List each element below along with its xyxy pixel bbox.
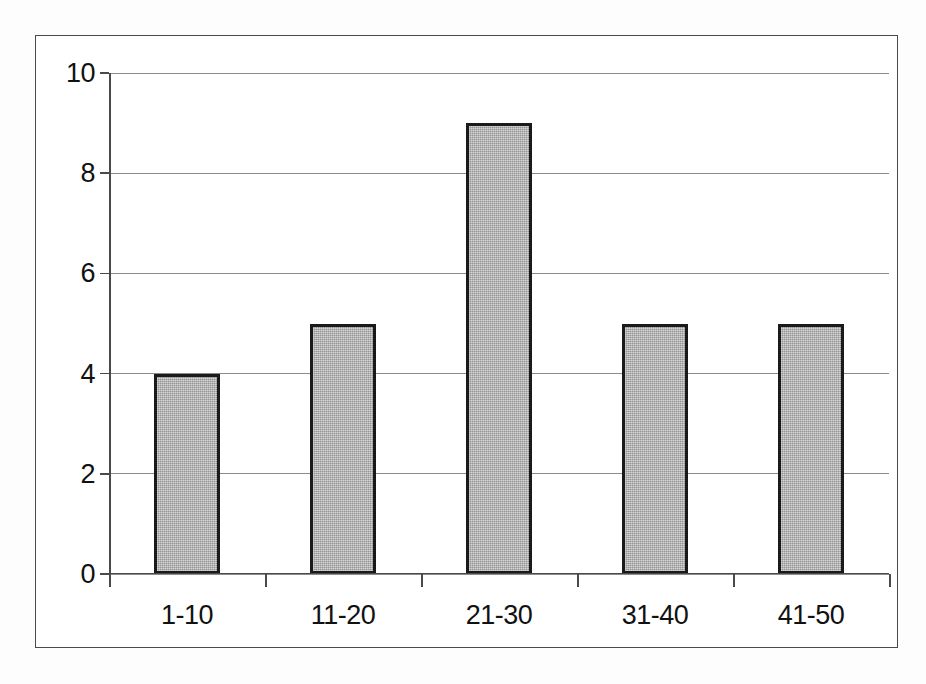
x-axis-tick [109, 574, 111, 587]
x-axis-category-label: 1-10 [109, 600, 265, 631]
bar [310, 324, 376, 575]
y-axis-tick-label: 8 [80, 158, 95, 189]
x-axis-line [109, 573, 889, 575]
x-axis-tick [577, 574, 579, 587]
y-axis-tick [100, 72, 109, 74]
y-axis-tick [100, 172, 109, 174]
x-axis-category-label: 11-20 [265, 600, 421, 631]
bar [622, 324, 688, 575]
plot-area: 0246810 [109, 73, 889, 574]
x-axis-tick [889, 574, 891, 587]
bar [778, 324, 844, 575]
x-axis-category-label: 41-50 [733, 600, 889, 631]
y-axis-tick-label: 6 [80, 258, 95, 289]
x-axis-category-label: 31-40 [577, 600, 733, 631]
y-axis-tick [100, 473, 109, 475]
y-axis-tick-label: 4 [80, 358, 95, 389]
bar [466, 123, 532, 574]
x-axis-tick [265, 574, 267, 587]
chart-screenshot: 0246810 1-1011-2021-3031-4041-50 [0, 0, 926, 684]
y-axis-line [109, 73, 111, 574]
y-axis-tick [100, 273, 109, 275]
y-axis-tick [100, 573, 109, 575]
bar [154, 374, 220, 574]
x-axis-tick [421, 574, 423, 587]
y-axis-tick-label: 10 [66, 58, 95, 89]
chart-frame: 0246810 1-1011-2021-3031-4041-50 [35, 35, 898, 648]
gridline [109, 73, 889, 74]
x-axis-category-label: 21-30 [421, 600, 577, 631]
y-axis-tick [100, 373, 109, 375]
x-axis-tick [733, 574, 735, 587]
y-axis-tick-label: 0 [80, 559, 95, 590]
y-axis-tick-label: 2 [80, 458, 95, 489]
